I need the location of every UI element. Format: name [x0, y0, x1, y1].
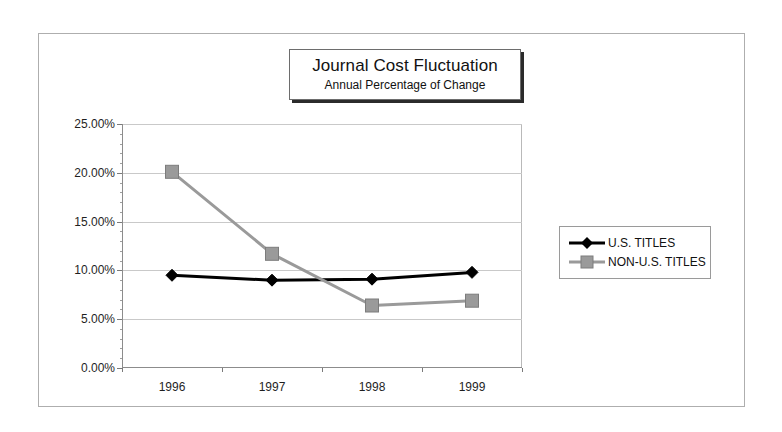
legend-label: U.S. TITLES — [608, 236, 675, 250]
legend-label: NON-U.S. TITLES — [608, 255, 706, 269]
plot-area: 0.00%5.00%10.00%15.00%20.00%25.00% 19961… — [122, 124, 522, 368]
y-axis-tick-label: 15.00% — [74, 215, 115, 228]
data-point — [366, 273, 378, 285]
y-axis-tick-label: 5.00% — [81, 313, 115, 326]
series-2 — [166, 165, 479, 312]
series-1 — [166, 266, 478, 286]
chart-frame: Journal Cost Fluctuation Annual Percenta… — [38, 33, 745, 407]
x-axis-tick-label: 1999 — [459, 380, 486, 394]
x-axis-tick-label: 1998 — [359, 380, 386, 394]
y-axis-tick-label: 10.00% — [74, 264, 115, 277]
x-axis-tick — [122, 368, 123, 372]
data-point — [266, 274, 278, 286]
series-line — [172, 172, 472, 306]
x-axis-tick — [522, 368, 523, 372]
square-marker-icon — [567, 255, 607, 269]
data-point — [466, 266, 478, 278]
y-axis-tick-label: 0.00% — [81, 362, 115, 375]
data-point — [166, 269, 178, 281]
x-axis-tick-label: 1996 — [159, 380, 186, 394]
x-axis-tick — [422, 368, 423, 372]
x-axis-tick — [222, 368, 223, 372]
data-point — [366, 299, 379, 312]
data-point — [266, 247, 279, 260]
chart-title: Journal Cost Fluctuation — [298, 55, 512, 76]
legend-entry-1[interactable]: U.S. TITLES — [567, 233, 703, 252]
y-axis-tick-label: 25.00% — [74, 118, 115, 131]
legend-entry-2[interactable]: NON-U.S. TITLES — [567, 252, 703, 271]
chart-title-block: Journal Cost Fluctuation Annual Percenta… — [289, 49, 521, 100]
chart-legend: U.S. TITLESNON-U.S. TITLES — [559, 226, 711, 279]
data-point — [166, 165, 179, 178]
series-layer — [122, 124, 522, 368]
diamond-marker-icon — [567, 236, 607, 250]
y-axis-tick-label: 20.00% — [74, 166, 115, 179]
data-point — [466, 294, 479, 307]
chart-subtitle: Annual Percentage of Change — [298, 77, 512, 93]
x-axis-tick — [322, 368, 323, 372]
x-axis-tick-label: 1997 — [259, 380, 286, 394]
